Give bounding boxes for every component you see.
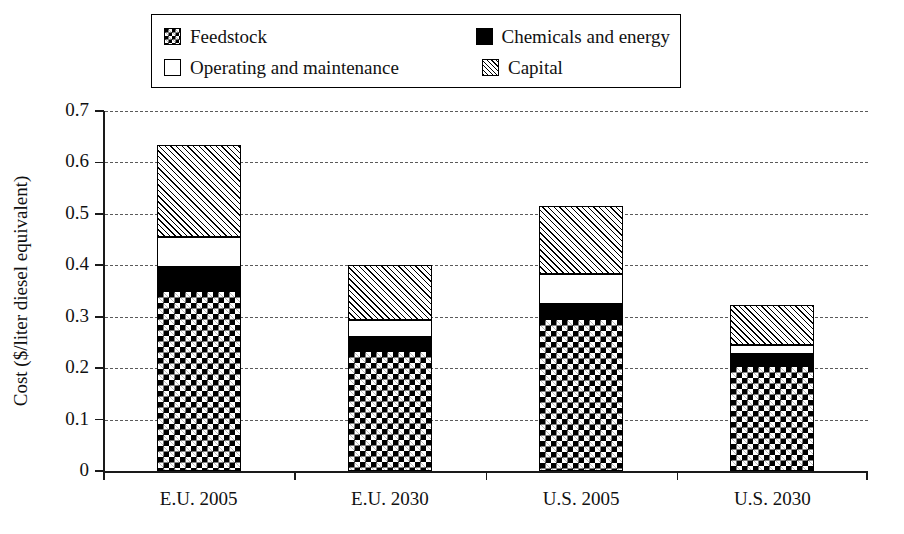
y-axis-tick-label: 0.7 — [31, 100, 89, 120]
y-axis-tick — [95, 367, 104, 369]
plot-area: E.U. 2005E.U. 2030U.S. 2005U.S. 2030 — [103, 111, 868, 471]
bar-segment-diagonal-hatch[interactable] — [730, 305, 814, 345]
x-axis-label: E.U. 2005 — [119, 489, 279, 509]
bar-segment-diagonal-hatch[interactable] — [157, 145, 241, 237]
stacked-bar[interactable] — [539, 206, 623, 471]
bar-segment-checkerboard[interactable] — [348, 351, 432, 471]
legend-label-operating: Operating and maintenance — [190, 58, 399, 78]
solid-black-swatch-icon — [476, 28, 493, 45]
legend-label-feedstock: Feedstock — [190, 27, 267, 47]
y-axis-line — [103, 111, 105, 471]
checkerboard-swatch-icon — [164, 28, 181, 45]
diagonal-hatch-swatch-icon — [482, 59, 499, 76]
y-axis-tick-label: 0.1 — [31, 409, 89, 429]
x-axis-tick — [866, 471, 868, 480]
x-axis-tick — [103, 471, 105, 480]
x-axis-label: E.U. 2030 — [310, 489, 470, 509]
bar-segment-solid-black[interactable] — [730, 354, 814, 366]
legend-item-capital: Capital — [482, 58, 563, 78]
gridline — [105, 111, 868, 112]
bar-segment-solid-black[interactable] — [348, 337, 432, 351]
y-axis-tick-label: 0.4 — [31, 254, 89, 274]
y-axis-tick — [95, 162, 104, 164]
bar-segment-solid-black[interactable] — [539, 304, 623, 319]
x-axis-tick — [677, 471, 679, 480]
legend-item-chemicals: Chemicals and energy — [476, 27, 671, 47]
legend-label-chemicals: Chemicals and energy — [502, 27, 671, 47]
y-axis-tick — [95, 419, 104, 421]
legend-item-operating: Operating and maintenance — [164, 58, 482, 78]
bar-segment-checkerboard[interactable] — [730, 366, 814, 471]
white-swatch-icon — [164, 59, 181, 76]
stacked-bar[interactable] — [348, 265, 432, 471]
legend-row-1: Feedstock Chemicals and energy — [164, 21, 670, 52]
x-axis-tick — [486, 471, 488, 480]
y-axis-tick — [95, 213, 104, 215]
y-axis-title-text: Cost ($/liter diesel equivalent) — [10, 176, 32, 407]
bar-segment-white[interactable] — [157, 237, 241, 267]
legend-item-feedstock: Feedstock — [164, 27, 476, 47]
y-axis-tick-label: 0 — [31, 460, 89, 480]
y-axis-tick — [95, 110, 104, 112]
stacked-bar[interactable] — [730, 305, 814, 471]
y-axis-tick-label: 0.5 — [31, 203, 89, 223]
x-axis-label: U.S. 2030 — [692, 489, 852, 509]
legend-label-capital: Capital — [508, 58, 563, 78]
y-axis-tick — [95, 264, 104, 266]
bar-segment-diagonal-hatch[interactable] — [539, 206, 623, 274]
chart-legend: Feedstock Chemicals and energy Operating… — [151, 14, 681, 88]
bar-segment-checkerboard[interactable] — [157, 291, 241, 471]
bar-segment-solid-black[interactable] — [157, 267, 241, 291]
y-axis-tick-label: 0.3 — [31, 306, 89, 326]
y-axis-tick-label: 0.6 — [31, 151, 89, 171]
bar-segment-white[interactable] — [348, 320, 432, 337]
legend-row-2: Operating and maintenance Capital — [164, 52, 670, 83]
bar-segment-diagonal-hatch[interactable] — [348, 265, 432, 320]
stacked-bar[interactable] — [157, 145, 241, 471]
y-axis-tick-label: 0.2 — [31, 357, 89, 377]
chart-figure: Feedstock Chemicals and energy Operating… — [0, 0, 904, 534]
bar-segment-white[interactable] — [730, 345, 814, 354]
y-axis-tick — [95, 316, 104, 318]
bar-segment-white[interactable] — [539, 274, 623, 304]
bar-segment-checkerboard[interactable] — [539, 319, 623, 471]
x-axis-label: U.S. 2005 — [501, 489, 661, 509]
x-axis-tick — [294, 471, 296, 480]
